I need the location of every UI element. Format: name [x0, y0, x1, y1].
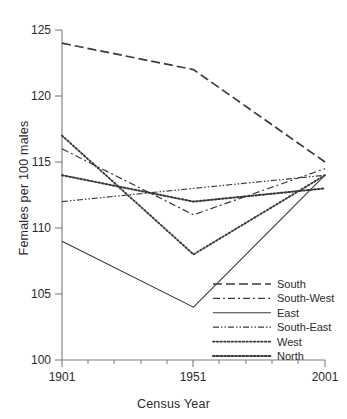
series-line-south: [62, 43, 325, 162]
legend-label-south: South: [277, 278, 306, 290]
y-tick-label-115: 115: [32, 155, 51, 169]
x-tick-label-1901: 1901: [49, 370, 76, 384]
series-line-south-west: [62, 149, 325, 215]
x-axis-tick-labels: 1901 1951 2001: [49, 370, 339, 384]
y-tick-label-105: 105: [31, 287, 51, 301]
line-chart-plot: 125 120 115 110 105 100 1901 1951 2001: [0, 0, 347, 419]
legend-label-south-east: South-East: [277, 321, 331, 333]
chart-container: 125 120 115 110 105 100 1901 1951 2001: [0, 0, 347, 419]
x-tick-label-2001: 2001: [312, 370, 339, 384]
chart-legend: SouthSouth-WestEastSouth-EastWestNorth: [213, 278, 334, 362]
y-axis-tick-labels: 125 120 115 110 105 100: [31, 23, 51, 367]
legend-label-south-west: South-West: [277, 292, 334, 304]
y-tick-label-120: 120: [31, 89, 51, 103]
legend-label-west: West: [277, 336, 302, 348]
series-line-south-east: [62, 175, 325, 201]
x-tick-label-1951: 1951: [180, 370, 207, 384]
y-tick-label-110: 110: [32, 221, 51, 235]
y-tick-label-125: 125: [31, 23, 51, 37]
y-axis-ticks: [55, 30, 62, 360]
series-layer: [62, 43, 325, 307]
legend-label-east: East: [277, 307, 299, 319]
series-line-west: [62, 136, 325, 255]
y-axis-title: Females per 100 males: [17, 88, 31, 288]
x-axis-title: Census Year: [0, 397, 347, 411]
legend-label-north: North: [277, 350, 304, 362]
y-tick-label-100: 100: [31, 353, 51, 367]
